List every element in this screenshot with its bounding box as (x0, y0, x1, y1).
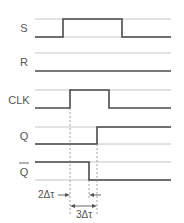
delay-3-annotation: 3Δτ (70, 204, 97, 220)
q-waveform (35, 127, 171, 144)
signal-label-q: Q (20, 130, 29, 142)
signal-label-s: S (20, 22, 27, 34)
signal-r: R (20, 53, 171, 71)
signal-label-q-bar: Q (20, 166, 29, 178)
signal-q-bar: Q (19, 162, 171, 180)
arrowhead-icon (65, 193, 70, 197)
arrowhead-icon (70, 204, 75, 208)
arrowhead-icon (89, 193, 94, 197)
reference-lines (70, 108, 97, 214)
s-waveform (35, 19, 171, 37)
signal-label-clk: CLK (8, 94, 30, 106)
signal-s: S (20, 19, 171, 37)
delay-2-label: 2Δτ (38, 189, 54, 200)
signal-clk: CLK (8, 90, 171, 108)
q-bar-waveform (35, 162, 171, 180)
delay-3-label: 3Δτ (76, 209, 92, 220)
delay-2-annotation: 2Δτ (38, 189, 101, 200)
signal-label-r: R (20, 56, 28, 68)
signal-q: Q (20, 127, 171, 144)
timing-diagram: S R CLK Q Q 2Δτ (0, 0, 184, 223)
arrowhead-icon (92, 204, 97, 208)
clk-waveform (35, 90, 171, 108)
